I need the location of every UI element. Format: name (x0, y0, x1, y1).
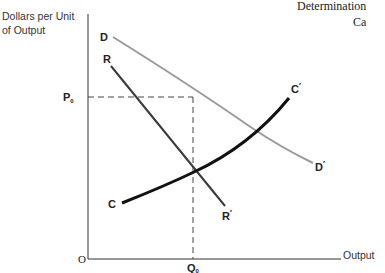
revenue-start-label: R (103, 53, 111, 65)
quantity-label: Q0 (187, 262, 200, 273)
demand-curve (113, 37, 313, 163)
demand-start-label: D (100, 31, 108, 43)
price-label: P0 (63, 91, 74, 104)
cost-start-label: C (108, 198, 116, 210)
y-axis-label-line2: of Output (2, 24, 45, 36)
header-title-line2: Ca (353, 15, 367, 29)
y-axis-label-line1: Dollars per Unit (2, 10, 74, 22)
cost-curve (122, 98, 289, 203)
chart-canvas: Determination Ca Dollars per Unit of Out… (0, 0, 385, 273)
demand-end-label: D′ (315, 159, 325, 173)
cost-end-label: C′ (291, 81, 301, 95)
x-axis-label: Output (343, 249, 375, 261)
header-title-line1: Determination (297, 0, 366, 13)
revenue-end-label: R′ (222, 208, 232, 222)
origin-label: O (78, 253, 86, 265)
